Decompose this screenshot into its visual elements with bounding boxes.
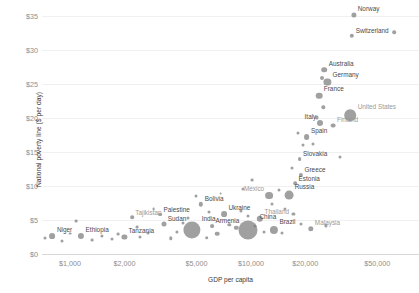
data-point-bubble[interactable] (110, 238, 113, 241)
data-point-bubble[interactable] (254, 225, 257, 228)
data-point-bubble[interactable] (331, 123, 336, 128)
data-point-bubble[interactable] (117, 233, 120, 236)
data-point-bubble[interactable] (44, 236, 47, 239)
data-point-bubble[interactable] (296, 132, 299, 135)
data-point-label: Greece (304, 166, 325, 173)
data-point-bubble[interactable] (139, 236, 142, 239)
scatter-chart: $0$5$10$15$20$25$30$35 National poverty … (0, 0, 419, 293)
gridline (42, 16, 419, 17)
data-point-bubble[interactable] (271, 203, 274, 206)
data-point-label: Slovakia (303, 149, 327, 156)
y-axis-tick-label: $15 (4, 148, 38, 157)
x-axis-tick-label: $2,000 (113, 259, 135, 268)
data-point-bubble[interactable] (75, 219, 78, 222)
data-point-bubble[interactable] (50, 233, 56, 239)
data-point-bubble[interactable] (100, 234, 103, 237)
data-point-bubble[interactable] (338, 155, 341, 158)
data-point-bubble[interactable] (270, 225, 278, 233)
data-point-label: Finland (337, 116, 358, 123)
x-axis-tick-label: $20,000 (292, 259, 318, 268)
data-point-label: Italy (305, 112, 317, 119)
x-axis-tick-label: $1,000 (59, 259, 81, 268)
data-point-label: Bolivia (205, 195, 224, 202)
data-point-bubble[interactable] (298, 157, 302, 161)
data-point-bubble[interactable] (311, 142, 314, 145)
data-point-bubble[interactable] (280, 231, 283, 234)
data-point-bubble[interactable] (122, 234, 127, 239)
data-point-label: Palestine (164, 205, 190, 212)
data-point-bubble[interactable] (78, 233, 84, 239)
data-point-bubble[interactable] (215, 231, 220, 236)
gridline (42, 118, 419, 119)
data-point-label: Malaysia (315, 219, 340, 226)
data-point-bubble[interactable] (181, 221, 184, 224)
data-point-bubble[interactable] (208, 210, 211, 213)
y-axis-tick-label: $20 (4, 114, 38, 123)
data-point-label: United States (358, 102, 396, 109)
data-point-bubble[interactable] (322, 67, 328, 73)
data-point-bubble[interactable] (262, 231, 265, 234)
data-point-label: Tanzania (129, 227, 155, 234)
data-point-bubble[interactable] (239, 220, 258, 239)
data-point-label: India (202, 214, 216, 221)
data-point-label: Brazil (279, 218, 295, 225)
data-point-label: Sudan (168, 214, 186, 221)
data-point-bubble[interactable] (284, 190, 293, 199)
data-point-bubble[interactable] (392, 31, 396, 35)
data-point-bubble[interactable] (90, 239, 93, 242)
x-axis-tick-label: $5,000 (185, 259, 207, 268)
data-point-bubble[interactable] (183, 222, 200, 239)
data-point-bubble[interactable] (322, 106, 325, 109)
data-point-label: France (324, 85, 344, 92)
data-point-label: China (259, 213, 276, 220)
data-point-label: Ukraine (228, 204, 250, 211)
data-point-bubble[interactable] (317, 120, 323, 126)
data-point-bubble[interactable] (234, 225, 238, 229)
data-point-label: Armenia (215, 217, 239, 224)
gridline (42, 152, 419, 153)
data-point-bubble[interactable] (265, 192, 273, 200)
data-point-label: Russia (295, 183, 315, 190)
data-point-label: Norway (358, 5, 380, 12)
data-point-label: Australia (329, 60, 354, 67)
y-axis-tick-label: $0 (4, 250, 38, 259)
data-point-bubble[interactable] (205, 236, 209, 240)
data-point-bubble[interactable] (246, 214, 249, 217)
data-point-bubble[interactable] (290, 167, 293, 170)
data-point-label: Niger (57, 226, 72, 233)
y-axis-tick-label: $5 (4, 216, 38, 225)
y-axis-tick-labels: $0$5$10$15$20$25$30$35 (0, 0, 38, 293)
data-point-bubble[interactable] (292, 212, 295, 215)
data-point-bubble[interactable] (175, 231, 178, 234)
gridline (42, 50, 419, 51)
data-point-label: Tajikistan (135, 208, 161, 215)
y-axis-tick-label: $25 (4, 80, 38, 89)
data-point-label: Germany (333, 71, 359, 78)
data-point-bubble[interactable] (301, 144, 304, 147)
gridline (42, 84, 419, 85)
y-axis-title: National poverty line ($ per day) (35, 40, 42, 240)
data-point-bubble[interactable] (251, 179, 254, 182)
data-point-bubble[interactable] (308, 226, 313, 231)
data-point-bubble[interactable] (161, 222, 166, 227)
gridline (42, 186, 419, 187)
data-point-bubble[interactable] (277, 189, 280, 192)
y-axis-tick-label: $35 (4, 12, 38, 21)
data-point-bubble[interactable] (210, 224, 214, 228)
y-axis-tick-label: $30 (4, 46, 38, 55)
data-point-bubble[interactable] (60, 240, 63, 243)
data-point-bubble[interactable] (169, 237, 172, 240)
data-point-bubble[interactable] (130, 216, 134, 220)
data-point-bubble[interactable] (199, 202, 203, 206)
data-point-bubble[interactable] (195, 194, 198, 197)
data-point-bubble[interactable] (300, 223, 303, 226)
x-axis-baseline (42, 254, 419, 255)
data-point-label: Spain (311, 127, 327, 134)
data-point-bubble[interactable] (320, 76, 324, 80)
data-point-label: Switzerland (356, 26, 389, 33)
data-point-bubble[interactable] (187, 216, 190, 219)
data-point-bubble[interactable] (316, 92, 323, 99)
data-point-bubble[interactable] (304, 134, 310, 140)
data-point-bubble[interactable] (350, 34, 354, 38)
x-axis-title: GDP per capita (42, 276, 419, 283)
